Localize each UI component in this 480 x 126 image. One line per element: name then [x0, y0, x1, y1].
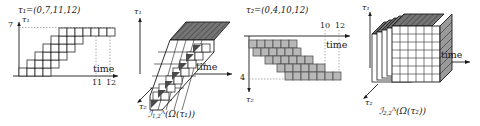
panel-4-caption-argument: (Ω(τ₂)) — [396, 106, 426, 116]
panel-3-sequence-label: τ₂=(0,4,10,12) — [246, 6, 308, 15]
panel-3-y-tick: 4 — [240, 74, 245, 82]
panel-1-y-axis-name: τ₁ — [22, 16, 30, 24]
panel-3-x-tick-12: 12 — [335, 22, 345, 30]
panel-4-caption: ℐ2,2Λ(Ω(τ₂)) — [379, 107, 426, 117]
panel-2-vertical-axis-name: τ₁ — [134, 8, 142, 16]
panel-1-x-tick-11: 11 — [92, 79, 102, 87]
panel-4-caption-subscript: 2,2 — [383, 110, 392, 116]
figure-canvas: τ₁=(0,7,11,12) τ₁ 7 time 11 12 τ₁ τ₂ tim… — [0, 0, 480, 126]
panel-2-depth-axis-name: τ₂ — [139, 103, 147, 111]
panel-3-x-axis-name: time — [326, 40, 348, 50]
panel-1-y-tick: 7 — [8, 21, 13, 29]
panel-3-y-axis-name: τ₂ — [246, 96, 254, 104]
panel-1-x-axis-name: time — [93, 64, 115, 74]
panel-1-sequence-label: τ₁=(0,7,11,12) — [18, 6, 80, 15]
panel-2-x-axis-name: time — [196, 62, 218, 72]
panel-4-vertical-axis-name: τ₁ — [362, 4, 370, 12]
panel-3-x-tick-10: 10 — [320, 22, 330, 30]
panel-4-x-axis-name: time — [441, 50, 463, 60]
panel-2-caption-argument: (Ω(τ₁)) — [165, 109, 195, 119]
panel-2-caption: ℐ1,2Λ(Ω(τ₁)) — [148, 110, 195, 120]
panel-2-caption-subscript: 1,2 — [152, 113, 161, 119]
panel-4-depth-axis-name: τ₂ — [365, 99, 373, 107]
panel-1-x-tick-12: 12 — [106, 79, 116, 87]
